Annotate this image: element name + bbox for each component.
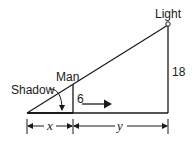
man-label: Man bbox=[56, 70, 79, 84]
man-height-label: 6 bbox=[77, 92, 84, 106]
y-dim-label: y bbox=[115, 118, 123, 133]
arrowhead-icon bbox=[104, 100, 112, 109]
light-label: Light bbox=[155, 7, 182, 21]
light-shadow-diagram: Light Man Shadow 6 18 x y bbox=[0, 0, 192, 147]
light-icon bbox=[166, 22, 170, 26]
shadow-label: Shadow bbox=[11, 83, 55, 97]
light-height-label: 18 bbox=[172, 65, 186, 79]
light-ray bbox=[27, 25, 168, 113]
x-dim-label: x bbox=[46, 118, 53, 133]
